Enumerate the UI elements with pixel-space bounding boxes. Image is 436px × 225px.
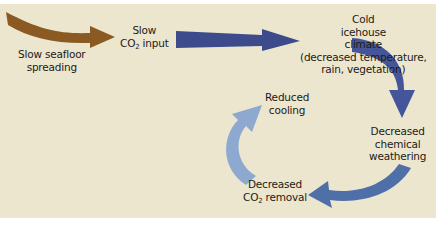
seafloor-line2: spreading — [18, 61, 85, 74]
label-decreased-co2-removal: Decreased CO2 removal — [243, 178, 307, 203]
arrow-co2-removal-to-reduced-cooling — [226, 105, 262, 185]
label-co2-input: Slow CO2 input — [120, 24, 169, 49]
icehouse-line3: climate — [300, 38, 427, 51]
icehouse-line5: rain, vegetation) — [300, 63, 427, 76]
arrow-weathering-to-co2-removal — [308, 164, 411, 208]
icehouse-line1: Cold — [300, 13, 427, 26]
co2-input-line2: CO2 input — [120, 37, 169, 50]
co2-prefix: CO — [120, 37, 135, 49]
weathering-line2: chemical — [369, 138, 426, 151]
seafloor-line1: Slow seafloor — [18, 48, 85, 61]
arrow-co2-input-to-icehouse — [176, 29, 300, 51]
icehouse-line4: (decreased temperature, — [300, 51, 427, 64]
co2-removal-line2: CO2 removal — [243, 191, 307, 204]
reduced-cooling-line1: Reduced — [265, 91, 309, 104]
arrow-seafloor-to-co2-input — [6, 12, 115, 48]
label-decreased-weathering: Decreased chemical weathering — [369, 125, 426, 163]
weathering-line3: weathering — [369, 150, 426, 163]
icehouse-line2: icehouse — [300, 26, 427, 39]
co2-removal-suffix: removal — [262, 191, 307, 203]
co2-removal-line1: Decreased — [243, 178, 307, 191]
co2-input-suffix: input — [139, 37, 168, 49]
reduced-cooling-line2: cooling — [265, 104, 309, 117]
label-seafloor-spreading: Slow seafloor spreading — [18, 48, 85, 73]
label-reduced-cooling: Reduced cooling — [265, 91, 309, 116]
co2-input-line1: Slow — [120, 24, 169, 37]
weathering-line1: Decreased — [369, 125, 426, 138]
co2-prefix: CO — [243, 191, 258, 203]
label-icehouse-climate: Cold icehouse climate (decreased tempera… — [300, 13, 427, 76]
